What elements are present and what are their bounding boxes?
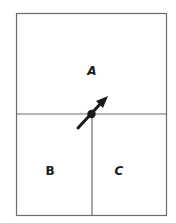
region-label-b: B [45,164,54,178]
partition-diagram: A B C [0,0,176,223]
region-label-a: A [86,64,96,78]
region-label-c: C [115,164,124,178]
junction-dot [87,110,95,118]
